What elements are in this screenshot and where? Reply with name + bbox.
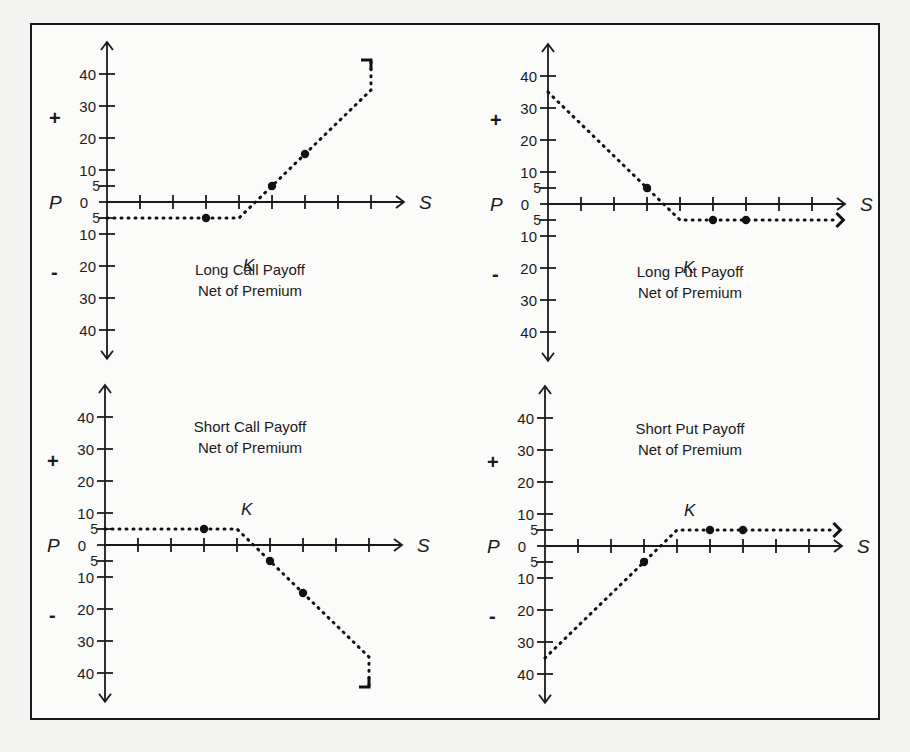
y-tick-label: 5 [533,180,541,196]
y-tick-label: 10 [517,570,534,587]
chart-title: Short Call Payoff [194,418,307,435]
y-tick-label: 20 [77,473,94,490]
y-tick-label: 30 [77,633,94,650]
chart-title: Short Put Payoff [636,420,746,437]
y-tick-label: 5 [92,178,100,194]
y-tick-label: 5 [90,553,98,569]
data-point-marker [266,557,274,565]
y-tick-label: 10 [79,162,96,179]
chart-panel-short-call: 4030201055102030400P+-SKShort Call Payof… [47,385,430,702]
chart-subtitle: Net of Premium [198,439,302,456]
x-axis-label: S [417,535,430,556]
y-tick-label: 10 [520,164,537,181]
chart-subtitle: Net of Premium [638,284,742,301]
chart-subtitle: Net of Premium [638,441,742,458]
chart-panel-long-call: 4030201055102030400P+-SKLong Call Payoff… [49,42,432,359]
negative-sign: - [489,605,496,627]
payoff-line [545,530,835,658]
negative-sign: - [51,261,58,283]
y-tick-label: 5 [90,521,98,537]
x-axis-label: S [860,194,873,215]
y-tick-label: 40 [517,410,534,427]
y-zero-label: 0 [78,537,86,554]
data-point-marker [301,150,309,158]
data-point-marker [739,526,747,534]
y-tick-label: 20 [520,260,537,277]
y-tick-label: 10 [520,228,537,245]
y-tick-label: 5 [530,522,538,538]
payoff-line [548,92,838,220]
y-tick-label: 40 [520,68,537,85]
y-tick-label: 40 [517,666,534,683]
data-point-marker [709,216,717,224]
y-tick-label: 30 [520,100,537,117]
up-right-arrow-icon [361,60,371,70]
data-point-marker [643,184,651,192]
chart-title: Long Call Payoff [195,261,306,278]
chart-title: Long Put Payoff [637,263,744,280]
right-arrow-icon [836,213,843,227]
payoff-diagram-figure: 4030201055102030400P+-SKLong Call Payoff… [30,23,880,720]
y-tick-label: 40 [77,665,94,682]
y-axis-label: P [490,194,503,215]
y-tick-label: 40 [79,66,96,83]
negative-sign: - [49,604,56,626]
data-point-marker [268,182,276,190]
y-tick-label: 30 [79,290,96,307]
payoff-line [107,58,371,218]
y-tick-label: 20 [520,132,537,149]
y-tick-label: 30 [517,634,534,651]
y-zero-label: 0 [518,538,526,555]
data-point-marker [299,589,307,597]
strike-label: K [241,500,253,519]
positive-sign: + [487,451,499,473]
strike-label: K [684,501,696,520]
y-tick-label: 40 [520,324,537,341]
y-tick-label: 20 [77,601,94,618]
right-arrow-icon [833,523,840,537]
data-point-marker [706,526,714,534]
positive-sign: + [49,107,61,129]
y-tick-label: 40 [77,409,94,426]
y-tick-label: 10 [77,505,94,522]
payoff-charts-svg: 4030201055102030400P+-SKLong Call Payoff… [32,25,878,718]
y-axis-label: P [487,536,500,557]
chart-panel-long-put: 4030201055102030400P+-SKLong Put PayoffN… [490,44,873,361]
positive-sign: + [47,450,59,472]
down-right-arrow-icon [359,677,369,687]
y-tick-label: 30 [520,292,537,309]
y-tick-label: 20 [79,130,96,147]
y-tick-label: 20 [517,474,534,491]
data-point-marker [200,525,208,533]
chart-panel-short-put: 4030201055102030400P+-SKShort Put Payoff… [487,386,870,703]
y-tick-label: 5 [92,210,100,226]
payoff-line [105,529,369,689]
chart-subtitle: Net of Premium [198,282,302,299]
x-axis-label: S [419,192,432,213]
y-axis-label: P [47,535,60,556]
y-tick-label: 20 [517,602,534,619]
data-point-marker [202,214,210,222]
y-tick-label: 30 [77,441,94,458]
y-axis-label: P [49,192,62,213]
y-tick-label: 30 [517,442,534,459]
y-tick-label: 10 [79,226,96,243]
y-tick-label: 10 [517,506,534,523]
y-zero-label: 0 [80,194,88,211]
y-tick-label: 5 [533,212,541,228]
y-tick-label: 10 [77,569,94,586]
y-tick-label: 5 [530,554,538,570]
y-tick-label: 20 [79,258,96,275]
positive-sign: + [490,109,502,131]
data-point-marker [742,216,750,224]
y-tick-label: 40 [79,322,96,339]
data-point-marker [640,558,648,566]
y-zero-label: 0 [521,196,529,213]
y-tick-label: 30 [79,98,96,115]
negative-sign: - [492,263,499,285]
x-axis-label: S [857,536,870,557]
